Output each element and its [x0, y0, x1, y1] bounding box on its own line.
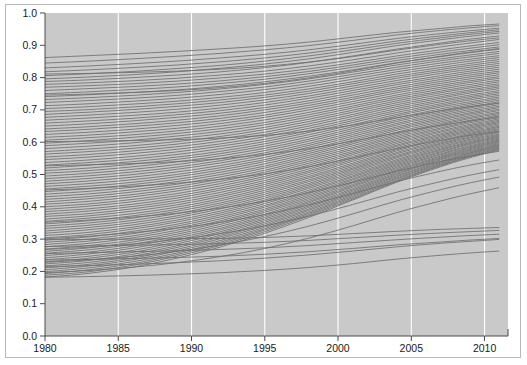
y-tick-label-0.6: 0.6 [22, 136, 37, 148]
x-tick-label-2005: 2005 [400, 342, 424, 354]
y-tick-label-1.0: 1.0 [22, 7, 37, 19]
x-tick-label-1985: 1985 [107, 342, 131, 354]
y-tick-label-0.5: 0.5 [22, 168, 37, 180]
line-chart-figure: 0.00.10.20.30.40.50.60.70.80.91.0 198019… [0, 0, 527, 365]
y-tick-label-0.9: 0.9 [22, 39, 37, 51]
y-tick-label-0.2: 0.2 [22, 265, 37, 277]
x-tick-label-2010: 2010 [473, 342, 497, 354]
y-axis-ticks: 0.00.10.20.30.40.50.60.70.80.91.0 [22, 7, 45, 342]
x-axis-ticks: 1980198519901995200020052010 [33, 336, 496, 354]
y-tick-label-0.0: 0.0 [22, 330, 37, 342]
x-tick-label-1995: 1995 [253, 342, 277, 354]
x-tick-label-1990: 1990 [180, 342, 204, 354]
y-tick-label-0.7: 0.7 [22, 103, 37, 115]
y-tick-label-0.8: 0.8 [22, 71, 37, 83]
y-tick-label-0.3: 0.3 [22, 233, 37, 245]
y-tick-label-0.1: 0.1 [22, 297, 37, 309]
x-tick-label-2000: 2000 [326, 342, 350, 354]
x-tick-label-1980: 1980 [33, 342, 57, 354]
y-tick-label-0.4: 0.4 [22, 200, 37, 212]
chart-screenshot: 0.00.10.20.30.40.50.60.70.80.91.0 198019… [0, 0, 527, 365]
